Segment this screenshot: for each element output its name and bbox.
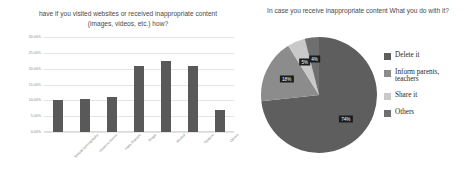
pie-chart-panel: In case you receive inappropriate conten… <box>248 0 466 173</box>
x-axis-tick-label: Violence /horror <box>98 133 118 153</box>
bar-slot <box>207 37 234 132</box>
pie-chart-title: In case you receive inappropriate conten… <box>256 6 460 16</box>
bar <box>134 66 144 133</box>
pie-slice-value-label: 74% <box>339 116 353 123</box>
two-chart-figure: have if you visited websites or received… <box>0 0 466 173</box>
pie-legend: Delete itInform parents, teachersShare i… <box>384 52 464 125</box>
x-axis-tick-label: Alcohol <box>176 133 187 144</box>
y-axis-tick-label: 25.00% <box>29 51 41 55</box>
legend-item-label: Share it <box>395 92 417 100</box>
bar-chart-panel: have if you visited websites or received… <box>0 0 248 173</box>
x-axis-labels-group: Sexual /pornographyViolence /horrorHate … <box>44 133 234 173</box>
x-axis-tick-label: Others <box>230 133 240 143</box>
pie-slice-value-label: 4% <box>309 56 321 63</box>
bar <box>53 100 63 132</box>
pie-slice-value-label: 18% <box>280 76 294 83</box>
bars-group <box>44 37 234 132</box>
bar-slot <box>71 37 98 132</box>
bar <box>80 99 90 132</box>
pie-chart-graphic: 74%18%5%4% <box>260 36 378 154</box>
legend-item: Delete it <box>384 52 464 60</box>
x-axis-tick-label: Sexual /pornography <box>73 133 99 159</box>
legend-swatch-icon <box>384 70 391 77</box>
y-axis-tick-label: 30.00% <box>29 35 41 39</box>
legend-swatch-icon <box>384 110 391 117</box>
legend-swatch-icon <box>384 93 391 100</box>
legend-item-label: Delete it <box>395 52 420 60</box>
x-axis-tick-label: Hate /Racism <box>124 133 142 151</box>
bar-slot <box>44 37 71 132</box>
bar <box>107 97 117 132</box>
x-axis-tick-label: Tobacco <box>203 133 215 145</box>
legend-item-label: Others <box>395 109 414 117</box>
legend-swatch-icon <box>384 53 391 60</box>
y-axis-tick-label: 5.00% <box>31 114 41 118</box>
bar-slot <box>153 37 180 132</box>
legend-item-label: Inform parents, teachers <box>395 69 464 84</box>
x-axis-tick-label: Drugs <box>148 133 157 142</box>
bar-slot <box>98 37 125 132</box>
bar-slot <box>180 37 207 132</box>
bar <box>161 61 171 132</box>
bar-slot <box>125 37 152 132</box>
bar <box>215 110 225 132</box>
pie-svg <box>260 36 378 154</box>
legend-item: Share it <box>384 92 464 100</box>
bar-chart-title: have if you visited websites or received… <box>28 9 228 28</box>
legend-item: Inform parents, teachers <box>384 69 464 84</box>
bar <box>188 66 198 133</box>
y-axis-tick-label: 20.00% <box>29 67 41 71</box>
legend-item: Others <box>384 109 464 117</box>
y-axis-tick-label: 10.00% <box>29 98 41 102</box>
bar-chart-plot-area: 30.00%25.00%20.00%15.00%10.00%5.00%0.00% <box>44 37 234 132</box>
y-axis-tick-label: 0.00% <box>31 130 41 134</box>
y-axis-tick-label: 15.00% <box>29 83 41 87</box>
